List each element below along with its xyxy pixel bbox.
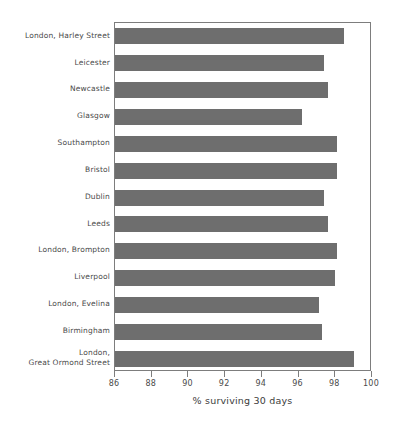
y-axis-label: London, Great Ormond Street xyxy=(0,348,110,367)
bar-row xyxy=(115,351,372,367)
y-axis-labels: London, Harley StreetLeicesterNewcastleG… xyxy=(0,22,110,371)
y-axis-label: Glasgow xyxy=(0,111,110,121)
bar xyxy=(115,28,344,44)
x-axis-ticks xyxy=(114,371,371,377)
x-tick-label: 86 xyxy=(109,378,120,389)
x-tick-label: 96 xyxy=(292,378,303,389)
x-tick xyxy=(334,371,335,377)
x-axis-tick-labels: 86889092949698100 xyxy=(0,378,394,390)
x-tick xyxy=(114,371,115,377)
x-tick xyxy=(371,371,372,377)
plot-area xyxy=(114,22,371,371)
y-axis-label: Newcastle xyxy=(0,84,110,94)
y-axis-label: Bristol xyxy=(0,165,110,175)
bar-row xyxy=(115,270,372,286)
bar xyxy=(115,351,354,367)
bar-row xyxy=(115,163,372,179)
x-tick-label: 88 xyxy=(145,378,156,389)
bar-chart: London, Harley StreetLeicesterNewcastleG… xyxy=(0,0,394,431)
x-axis-title: % surviving 30 days xyxy=(114,394,371,407)
bar-row xyxy=(115,324,372,340)
y-axis-label: Southampton xyxy=(0,138,110,148)
y-axis-label: Liverpool xyxy=(0,272,110,282)
y-axis-label: Leicester xyxy=(0,58,110,68)
bar-row xyxy=(115,109,372,125)
x-tick-label: 100 xyxy=(363,378,379,389)
x-tick xyxy=(187,371,188,377)
bar xyxy=(115,190,324,206)
bar xyxy=(115,109,302,125)
x-tick-label: 90 xyxy=(182,378,193,389)
bar xyxy=(115,55,324,71)
bar-row xyxy=(115,216,372,232)
bar xyxy=(115,297,319,313)
bar-row xyxy=(115,243,372,259)
x-tick-label: 92 xyxy=(219,378,230,389)
x-tick-label: 94 xyxy=(256,378,267,389)
bar xyxy=(115,324,322,340)
bar xyxy=(115,270,335,286)
bar xyxy=(115,163,337,179)
y-axis-label: London, Brompton xyxy=(0,245,110,255)
x-tick xyxy=(224,371,225,377)
y-axis-label: Dublin xyxy=(0,192,110,202)
x-tick xyxy=(298,371,299,377)
bar-row xyxy=(115,297,372,313)
bar xyxy=(115,216,328,232)
bar xyxy=(115,136,337,152)
bar-row xyxy=(115,82,372,98)
x-tick xyxy=(151,371,152,377)
y-axis-label: London, Harley Street xyxy=(0,31,110,41)
y-axis-label: Birmingham xyxy=(0,326,110,336)
y-axis-label: Leeds xyxy=(0,219,110,229)
bar-row xyxy=(115,136,372,152)
bar xyxy=(115,82,328,98)
bar-row xyxy=(115,190,372,206)
bar-row xyxy=(115,55,372,71)
y-axis-label: London, Evelina xyxy=(0,299,110,309)
bar-row xyxy=(115,28,372,44)
bar xyxy=(115,243,337,259)
x-tick xyxy=(261,371,262,377)
x-tick-label: 98 xyxy=(329,378,340,389)
